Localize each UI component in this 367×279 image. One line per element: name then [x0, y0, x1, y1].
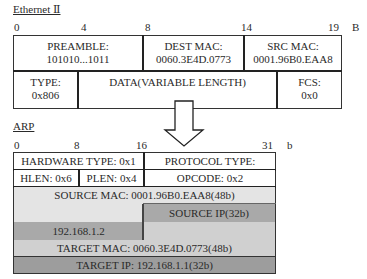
- eth-tick-19: 19: [328, 21, 339, 33]
- arp-title: ARP: [13, 120, 34, 132]
- arp-tick-16: 16: [136, 139, 147, 151]
- preamble-label: PREAMBLE:: [47, 40, 109, 53]
- arp-source-ip: SOURCE IP(32b): [143, 204, 275, 222]
- arp-tick-31: 31: [262, 139, 273, 151]
- eth-unit: B: [352, 21, 359, 33]
- dest-mac-value: 0060.3E4D.0773: [156, 53, 231, 66]
- eth-tick-4: 4: [81, 21, 87, 33]
- dest-mac-label: DEST MAC:: [164, 40, 222, 53]
- src-mac-value: 0001.96B0.EAA8: [253, 53, 332, 66]
- eth-src-mac-cell: SRC MAC: 0001.96B0.EAA8: [245, 36, 341, 70]
- eth-tick-14: 14: [241, 21, 252, 33]
- arp-protocol-type: PROTOCOL TYPE:: [145, 153, 275, 169]
- type-value: 0x806: [32, 89, 60, 102]
- src-mac-label: SRC MAC:: [267, 40, 319, 53]
- eth-type-cell: TYPE: 0x806: [14, 72, 77, 106]
- fcs-value: 0x0: [301, 89, 318, 102]
- arp-unit: b: [287, 139, 293, 151]
- arp-plen: PLEN: 0x4: [80, 170, 143, 186]
- arp-hardware-type: HARDWARE TYPE: 0x1: [14, 153, 143, 169]
- eth-dest-mac-cell: DEST MAC: 0060.3E4D.0773: [144, 36, 243, 70]
- arp-tick-8: 8: [74, 139, 80, 151]
- ethernet-title: Ethernet Ⅱ: [13, 3, 61, 16]
- eth-fcs-cell: FCS: 0x0: [278, 72, 341, 106]
- arp-opcode: OPCODE: 0x2: [145, 170, 275, 186]
- arp-target-mac: TARGET MAC: 0060.3E4D.0773(48b): [14, 240, 275, 257]
- arp-hlen: HLEN: 0x6: [14, 170, 78, 186]
- eth-tick-8: 8: [145, 21, 151, 33]
- arp-target-ip: TARGET IP: 192.168.1.1(32b): [14, 257, 275, 273]
- eth-tick-0: 0: [14, 21, 20, 33]
- arp-target-mac-start-bg: [143, 222, 275, 240]
- preamble-value: 101010...1011: [47, 53, 110, 66]
- arp-divider-source-ip: [142, 204, 144, 240]
- fcs-label: FCS:: [298, 76, 321, 89]
- arp-source-mac: SOURCE MAC: 0001.96B0.EAA8(48b): [14, 187, 275, 204]
- type-label: TYPE:: [30, 76, 61, 89]
- arp-source-ip-value: 192.168.1.2: [14, 222, 143, 240]
- arp-tick-0: 0: [14, 139, 20, 151]
- arp-source-mac-continuation: [14, 204, 143, 222]
- data-label: DATA(VARIABLE LENGTH): [109, 76, 246, 89]
- eth-preamble-cell: PREAMBLE: 101010...1011: [14, 36, 142, 70]
- down-arrow-icon: [160, 100, 210, 148]
- arp-source-ip-top-border: [143, 203, 276, 204]
